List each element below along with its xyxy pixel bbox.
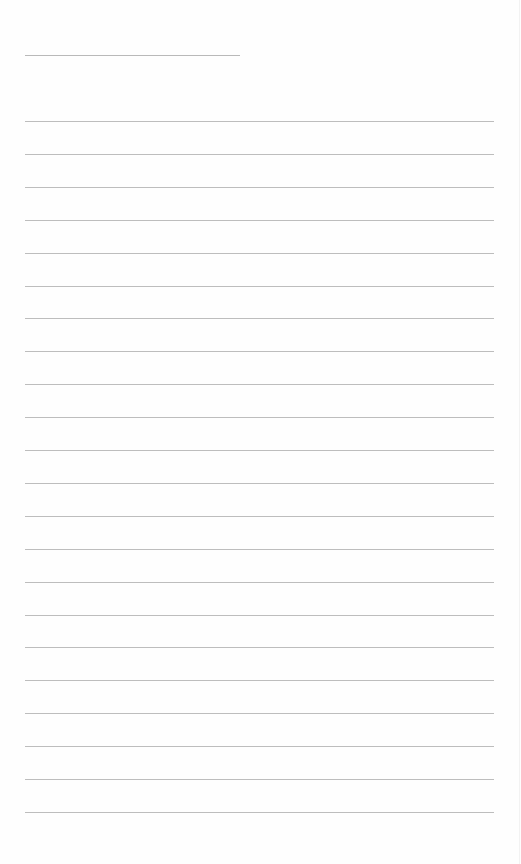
ruled-line	[25, 746, 494, 747]
lined-page	[0, 0, 521, 864]
ruled-line	[25, 318, 494, 319]
ruled-line	[25, 450, 494, 451]
page-edge	[519, 0, 520, 864]
ruled-line	[25, 713, 494, 714]
ruled-line	[25, 582, 494, 583]
ruled-line	[25, 615, 494, 616]
ruled-line	[25, 417, 494, 418]
ruled-line	[25, 121, 494, 122]
ruled-line	[25, 384, 494, 385]
ruled-line	[25, 647, 494, 648]
ruled-line	[25, 549, 494, 550]
ruled-line	[25, 187, 494, 188]
ruled-line	[25, 516, 494, 517]
ruled-line	[25, 220, 494, 221]
ruled-line	[25, 779, 494, 780]
ruled-line	[25, 253, 494, 254]
ruled-line	[25, 680, 494, 681]
ruled-line	[25, 483, 494, 484]
ruled-line	[25, 286, 494, 287]
ruled-line	[25, 154, 494, 155]
ruled-line	[25, 351, 494, 352]
header-line	[25, 55, 240, 56]
ruled-line	[25, 812, 494, 813]
